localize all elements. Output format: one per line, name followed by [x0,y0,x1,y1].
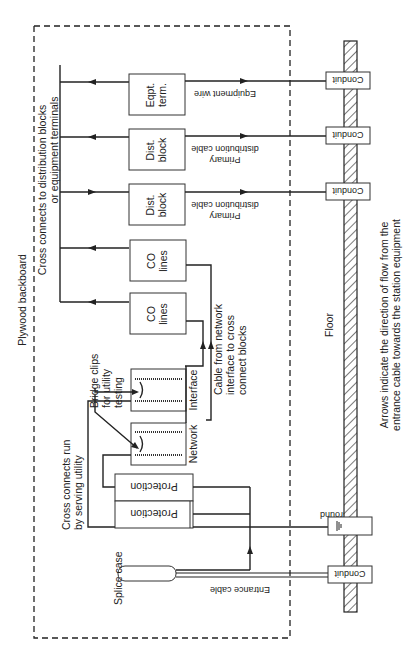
svg-text:Dist.: Dist. [144,140,156,161]
conduit-equipment: Conduit [326,72,370,89]
backboard-label: Plywood backboard [16,254,28,346]
conduit-entrance: Conduit [328,566,372,583]
svg-text:Network: Network [187,424,199,463]
block-dist-2: Dist. block [129,184,185,225]
svg-text:Conduit: Conduit [334,569,366,579]
svg-text:block: block [156,137,168,162]
svg-text:Conduit: Conduit [332,75,364,85]
entrance-cable-label: Entrance cable [210,585,270,595]
cable-label-line2: interface to cross [224,315,236,395]
arrow-icon [88,79,96,85]
cross-connects-annotation-line1: Cross connects to distribution blocks [36,105,48,275]
svg-text:Protection: Protection [130,508,177,520]
equipment-wire-label: Equipment wire [194,89,256,99]
arrow-icon [88,134,96,140]
svg-text:CO: CO [145,306,157,322]
block-co-lines-1: CO lines [130,240,186,281]
cable-from-interface [206,340,211,420]
ground-block [328,517,372,535]
conduit-dist-2: Conduit [326,183,370,200]
co-lines-2-lead [186,321,203,340]
arrow-icon [247,546,253,554]
cross-connects-run-line2: by serving utility [72,455,84,530]
svg-text:lines: lines [157,250,169,272]
network-block: Network [131,423,199,465]
block-co-lines-2: CO lines [130,293,186,334]
block-eqpt-term: Eqpt. term. [129,74,185,115]
arrow-icon [88,245,96,251]
splice-case-label: Splice case [112,551,124,605]
interface-block: Interface [131,369,199,411]
co-lines-1-lead [186,265,211,340]
cable-label-line3: connect blocks [236,326,248,395]
primary-distribution-2-label-line2: distribution cable [191,200,259,210]
primary-distribution-2-label-line1: Primary [209,211,240,221]
caption-line2: entrance cable towards the station equip… [390,219,402,431]
arrow-icon [240,133,248,139]
primary-distribution-1-label-line1: Primary [209,155,240,165]
svg-text:term.: term. [156,83,168,107]
svg-text:Dist.: Dist. [144,195,156,216]
bridge-clips-line1: Bridge clips [88,354,100,408]
protection-block-2: Protection [115,501,193,528]
svg-text:Eqpt.: Eqpt. [144,83,156,108]
svg-text:Protection: Protection [130,481,177,493]
conduit-dist-1: Conduit [326,127,370,144]
arrow-icon [88,299,96,305]
svg-text:Conduit: Conduit [332,130,364,140]
arrow-icon [240,78,248,84]
protection-block-1: Protection [115,474,193,501]
cross-connects-run-line1: Cross connects run [60,439,72,530]
block-dist-1: Dist. block [129,129,185,170]
svg-text:Interface: Interface [187,369,199,410]
arrow-icon [88,189,96,195]
floor-label: Floor [323,313,335,337]
caption-line1: Arrows indicate the direction of flow fr… [378,222,390,429]
svg-text:block: block [156,192,168,217]
cable-from-interface-2 [185,340,203,366]
svg-text:Conduit: Conduit [332,186,364,196]
cable-label-line1: Cable from network [212,303,224,395]
splice-case [118,566,176,581]
cross-connects-annotation-line2: or equipment terminals [48,97,60,204]
arrow-icon [200,341,206,349]
bridge-clips-line2: for utility [100,368,112,408]
backboard-wiring-diagram: Plywood backboard Cross connects to dist… [0,0,407,662]
svg-text:lines: lines [157,303,169,325]
primary-distribution-1-label-line2: distribution cable [191,144,259,154]
arrow-icon [240,189,248,195]
svg-text:CO: CO [145,253,157,269]
